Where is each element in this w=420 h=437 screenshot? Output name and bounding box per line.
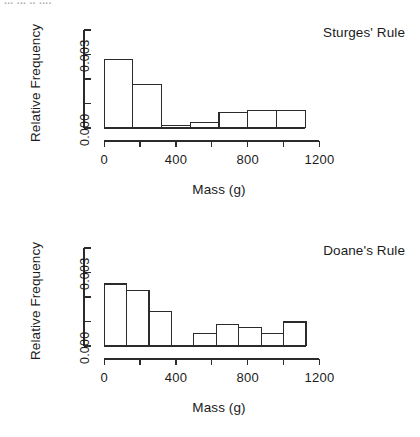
histogram-bar — [149, 312, 171, 346]
panel-doane: Relative Frequency Doane's Rule Mass (g)… — [0, 218, 420, 436]
histogram-figure: ... ... .. .... Relative Frequency Sturg… — [0, 0, 420, 437]
histogram-bar — [127, 290, 149, 346]
histogram-bar — [276, 111, 305, 128]
histogram-bars — [104, 284, 306, 346]
histogram-bar — [104, 60, 133, 128]
x-axis-title-sturges: Mass (g) — [119, 182, 319, 197]
histogram-bar — [261, 334, 283, 346]
y-tick-label: 0.000 — [78, 332, 92, 364]
histogram-bar — [248, 111, 277, 128]
histogram-bar — [216, 324, 238, 346]
x-tick-label: 0 — [74, 152, 134, 167]
x-tick-label: 400 — [146, 152, 206, 167]
y-tick-label: 0.000 — [78, 114, 92, 146]
histogram-bar — [219, 113, 248, 128]
x-tick-label: 1200 — [289, 370, 349, 385]
x-tick-label: 800 — [218, 152, 278, 167]
x-tick-label: 0 — [74, 370, 134, 385]
histogram-bar — [133, 84, 162, 128]
histogram-bars — [104, 60, 305, 128]
histogram-bar — [104, 284, 126, 346]
y-tick-label: 0.003 — [78, 258, 92, 290]
histogram-bar — [190, 123, 219, 128]
x-tick-label: 1200 — [289, 152, 349, 167]
x-axis-title-doane: Mass (g) — [119, 400, 319, 415]
histogram-bar — [239, 327, 261, 346]
panel-sturges: Relative Frequency Sturges' Rule Mass (g… — [0, 0, 420, 218]
histogram-bar — [284, 322, 306, 346]
histogram-bar — [194, 333, 216, 346]
x-tick-label: 400 — [146, 370, 206, 385]
x-tick-label: 800 — [218, 370, 278, 385]
y-tick-label: 0.003 — [78, 40, 92, 72]
